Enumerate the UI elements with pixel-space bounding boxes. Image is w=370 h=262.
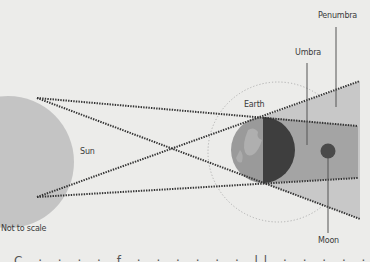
sun-label: Sun — [80, 147, 95, 156]
moon-shape — [321, 144, 336, 159]
caption-fragment: C · · · · f · · · · · · ll · · · · · · ·… — [14, 254, 370, 262]
scale-note: Not to scale — [1, 224, 46, 233]
umbra-label: Umbra — [295, 48, 321, 57]
eclipse-diagram — [0, 0, 370, 262]
moon-label: Moon — [318, 236, 339, 245]
sun-shape — [0, 96, 74, 228]
penumbra-label: Penumbra — [318, 11, 357, 20]
earth-shape — [231, 117, 295, 183]
earth-label: Earth — [244, 100, 264, 109]
